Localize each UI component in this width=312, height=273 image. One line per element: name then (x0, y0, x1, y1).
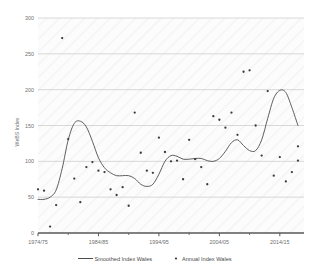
y-axis-tick-label: 100 (25, 158, 34, 164)
chart-container: 050100150200250300 1974/751984/851994/95… (0, 0, 312, 273)
annual-index-point (109, 188, 111, 190)
annual-index-point (242, 71, 244, 73)
x-axis-tick-label: 1984/85 (89, 239, 109, 245)
annual-index-point (43, 190, 45, 192)
annual-index-point (79, 201, 81, 203)
annual-index-point (285, 180, 287, 182)
annual-index-point (194, 158, 196, 160)
annual-index-point (158, 137, 160, 139)
annual-index-point (73, 177, 75, 179)
annual-index-point (273, 175, 275, 177)
annual-index-point (85, 166, 87, 168)
annual-index-point (176, 159, 178, 161)
annual-index-point (248, 69, 250, 71)
annual-index-point (200, 166, 202, 168)
y-axis-tick-label: 0 (31, 230, 34, 236)
legend-dot-swatch (175, 257, 177, 259)
annual-index-point (254, 124, 256, 126)
annual-index-point (291, 171, 293, 173)
x-axis-tick-label: 1974/75 (28, 239, 48, 245)
annual-index-point (103, 171, 105, 173)
annual-index-point (140, 152, 142, 154)
annual-index-point (55, 204, 57, 206)
y-axis-tick-label: 250 (25, 51, 34, 57)
y-axis-tick-label: 300 (25, 15, 34, 21)
annual-index-point (134, 111, 136, 113)
annual-index-point (236, 134, 238, 136)
annual-index-point (206, 183, 208, 185)
x-axis-tick-label: 2004/05 (210, 239, 230, 245)
annual-index-point (67, 138, 69, 140)
annual-index-point (279, 156, 281, 158)
annual-index-point (152, 172, 154, 174)
y-axis-tick-label: 50 (28, 194, 34, 200)
annual-index-point (188, 139, 190, 141)
annual-index-point (170, 160, 172, 162)
legend-label-annual: Annual Index Wales (182, 256, 232, 262)
legend-label-smoothed: Smoothed Index Wales (95, 256, 153, 262)
annual-index-point (49, 225, 51, 227)
annual-index-point (97, 170, 99, 172)
annual-index-point (164, 151, 166, 153)
annual-index-point (267, 90, 269, 92)
annual-index-point (37, 188, 39, 190)
annual-index-point (146, 170, 148, 172)
annual-index-point (224, 127, 226, 129)
y-axis-tick-label: 200 (25, 87, 34, 93)
annual-index-point (230, 111, 232, 113)
x-axis-tick-label: 2014/15 (270, 239, 290, 245)
weBS-index-chart: 050100150200250300 1974/751984/851994/95… (0, 0, 312, 273)
y-axis-title: WeBS Index (14, 117, 20, 146)
annual-index-point (218, 119, 220, 121)
annual-index-point (91, 161, 93, 163)
y-axis-tick-label: 150 (25, 123, 34, 129)
annual-index-point (115, 194, 117, 196)
annual-index-point (297, 159, 299, 161)
annual-index-point (182, 178, 184, 180)
annual-index-point (121, 186, 123, 188)
annual-index-point (261, 154, 263, 156)
annual-index-point (297, 145, 299, 147)
annual-index-point (212, 115, 214, 117)
x-axis-tick-label: 1994/95 (149, 239, 169, 245)
annual-index-point (128, 205, 130, 207)
annual-index-point (61, 37, 63, 39)
